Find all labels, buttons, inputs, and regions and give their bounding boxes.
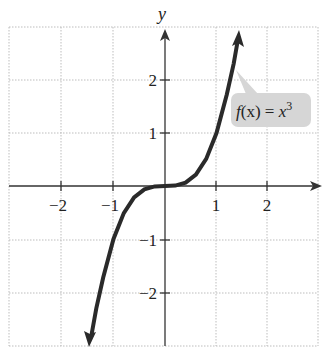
callout-pointer bbox=[236, 70, 258, 94]
function-label: f(x) = x3 bbox=[236, 99, 292, 121]
y-tick-label: 1 bbox=[149, 124, 158, 143]
y-tick-label: −2 bbox=[139, 284, 157, 303]
axes bbox=[9, 36, 318, 346]
cubic-function-graph: −2 −1 1 2 2 1 −1 −2 y f(x) = x3 bbox=[0, 0, 325, 348]
y-axis-label: y bbox=[156, 4, 166, 24]
y-tick-label: 2 bbox=[149, 71, 158, 90]
x-tick-label: 1 bbox=[212, 196, 221, 215]
y-tick-label: −1 bbox=[139, 231, 157, 250]
x-tick-label: −2 bbox=[49, 196, 67, 215]
x-tick-label: 2 bbox=[263, 196, 272, 215]
x-tick-label: −1 bbox=[101, 196, 119, 215]
